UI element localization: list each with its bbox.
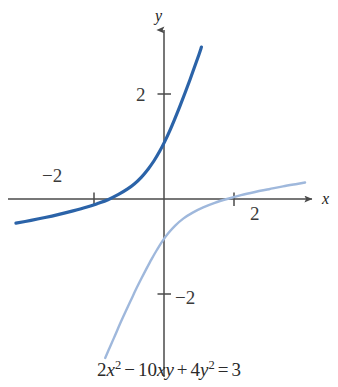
x-tick-label-pos2: 2 bbox=[250, 204, 260, 223]
caption-coef-xy: 10 bbox=[138, 359, 157, 380]
caption-plus: + bbox=[174, 359, 191, 380]
figure-caption-equation: 2x2−10xy+4y2=3 bbox=[0, 360, 338, 381]
caption-rhs: 3 bbox=[231, 359, 241, 380]
caption-exp-y: 2 bbox=[208, 358, 214, 372]
coordinate-plot bbox=[0, 0, 338, 387]
figure-container: y x −2 2 2 −2 2x2−10xy+4y2=3 bbox=[0, 0, 338, 387]
caption-var-xy: xy bbox=[157, 359, 174, 380]
curve-upper-left-branch bbox=[16, 47, 202, 223]
caption-minus: − bbox=[121, 359, 138, 380]
y-tick-label-pos2: 2 bbox=[136, 85, 146, 104]
x-tick-label-neg2: −2 bbox=[42, 166, 62, 185]
caption-coef-y2: 4 bbox=[191, 359, 201, 380]
x-axis-label: x bbox=[322, 191, 329, 207]
caption-equals: = bbox=[215, 359, 232, 380]
y-axis-label: y bbox=[155, 8, 162, 24]
caption-coef-x2: 2 bbox=[97, 359, 107, 380]
caption-var-x: x bbox=[107, 359, 115, 380]
axis-group bbox=[8, 30, 312, 377]
curve-lower-right-branch bbox=[105, 183, 305, 358]
y-tick-label-neg2: −2 bbox=[175, 288, 195, 307]
